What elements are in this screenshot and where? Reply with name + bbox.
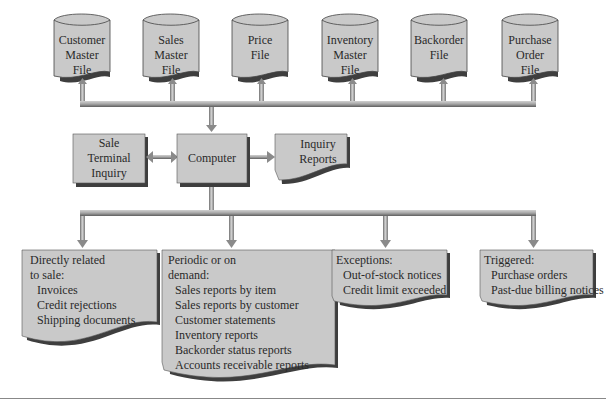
bottom-divider: [0, 398, 606, 399]
output-item: Sales reports by item: [168, 283, 309, 298]
output-heading: to sale:: [30, 268, 135, 283]
output-connectors: [77, 210, 539, 248]
terminal-label-line: Terminal: [73, 151, 145, 166]
output-doc-triggered: Triggered: Purchase orders Past-due bill…: [484, 253, 604, 298]
output-item: Shipping documents: [30, 313, 135, 328]
file-connectors: [78, 78, 538, 132]
file-label-sales-master: Sales Master File: [143, 33, 199, 78]
output-item: Purchase orders: [484, 268, 604, 283]
output-item: Customer statements: [168, 313, 309, 328]
terminal-label-line: Inquiry: [73, 166, 145, 181]
file-label-line: Master: [143, 48, 199, 63]
file-label-line: Order: [502, 48, 558, 63]
output-heading: Periodic or on: [168, 253, 309, 268]
file-label-line: Inventory: [320, 33, 380, 48]
file-label-line: Customer: [54, 33, 110, 48]
computer-box: Computer: [177, 151, 247, 166]
file-cylinders: [54, 14, 558, 83]
output-doc-periodic: Periodic or on demand: Sales reports by …: [168, 253, 309, 373]
output-item: Accounts receivable reports: [168, 358, 309, 373]
output-item: Backorder status reports: [168, 343, 309, 358]
file-label-line: Price: [232, 33, 288, 48]
terminal-label-line: Sale: [73, 136, 145, 151]
file-label-line: File: [232, 48, 288, 63]
file-label-line: Backorder: [409, 33, 469, 48]
file-label-line: Purchase: [502, 33, 558, 48]
file-label-price: Price File: [232, 33, 288, 63]
file-label-backorder: Backorder File: [409, 33, 469, 63]
file-label-line: File: [502, 63, 558, 78]
output-heading: Directly related: [30, 253, 135, 268]
output-item: Sales reports by customer: [168, 298, 309, 313]
inquiry-reports-label-line: Reports: [286, 152, 350, 167]
file-label-line: Master: [54, 48, 110, 63]
file-label-purchase-order: Purchase Order File: [502, 33, 558, 78]
output-item: Out-of-stock notices: [336, 268, 446, 283]
output-doc-exceptions: Exceptions: Out-of-stock notices Credit …: [336, 253, 446, 298]
output-item: Inventory reports: [168, 328, 309, 343]
output-heading: Triggered:: [484, 253, 604, 268]
output-item: Credit limit exceeded: [336, 283, 446, 298]
output-item: Past-due billing notices: [484, 283, 604, 298]
output-item: Invoices: [30, 283, 135, 298]
output-heading: demand:: [168, 268, 309, 283]
output-heading: Exceptions:: [336, 253, 446, 268]
inquiry-reports-label-line: Inquiry: [286, 137, 350, 152]
file-label-line: File: [54, 63, 110, 78]
file-label-line: Sales: [143, 33, 199, 48]
file-label-inventory-master: Inventory Master File: [320, 33, 380, 78]
file-label-customer-master: Customer Master File: [54, 33, 110, 78]
computer-label: Computer: [177, 151, 247, 166]
output-item: Credit rejections: [30, 298, 135, 313]
file-label-line: File: [143, 63, 199, 78]
inquiry-reports-document: Inquiry Reports: [286, 137, 350, 167]
file-label-line: Master: [320, 48, 380, 63]
file-label-line: File: [320, 63, 380, 78]
output-doc-directly-related: Directly related to sale: Invoices Credi…: [30, 253, 135, 328]
sale-terminal-inquiry-box: Sale Terminal Inquiry: [73, 136, 145, 181]
file-label-line: File: [409, 48, 469, 63]
